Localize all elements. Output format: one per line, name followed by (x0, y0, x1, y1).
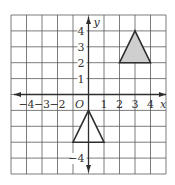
coordinate-plane: −4−3−212344321−4Oxy (0, 0, 175, 185)
x-axis-right-arrow-icon (159, 92, 166, 97)
origin-label: O (75, 98, 84, 111)
x-tick-label: 4 (147, 98, 154, 111)
y-tick-label: 2 (78, 57, 85, 70)
x-tick-label: −3 (34, 98, 50, 111)
y-tick-label: 1 (78, 73, 85, 86)
axes (14, 17, 166, 172)
y-tick-label: 4 (78, 25, 85, 38)
x-axis-label: x (160, 98, 167, 111)
x-tick-label: 1 (101, 98, 108, 111)
y-axis-up-arrow-icon (86, 17, 91, 24)
x-tick-label: −4 (18, 98, 34, 111)
x-tick-label: 3 (132, 98, 139, 111)
y-axis-down-arrow-icon (86, 165, 91, 172)
x-axis-left-arrow-icon (14, 92, 21, 97)
x-tick-label: −2 (49, 98, 65, 111)
x-tick-label: 2 (116, 98, 123, 111)
y-tick-label: −4 (68, 152, 84, 165)
y-axis-label: y (92, 16, 100, 29)
y-tick-label: 3 (78, 41, 85, 54)
